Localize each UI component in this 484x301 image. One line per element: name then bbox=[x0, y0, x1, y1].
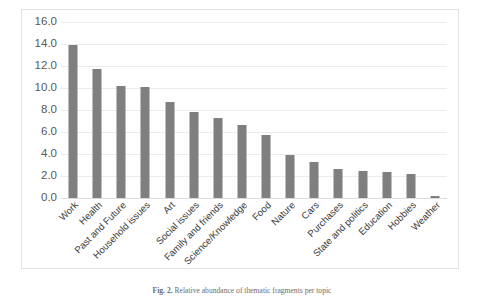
bar-slot bbox=[230, 22, 254, 198]
figure-caption: Fig. 2. Relative abundance of thematic f… bbox=[0, 286, 484, 301]
bar-slot bbox=[278, 22, 302, 198]
bar[interactable] bbox=[69, 45, 78, 198]
y-axis-tick-label: 4.0 bbox=[23, 148, 57, 160]
caption-label: Fig. 2. bbox=[153, 286, 173, 295]
bar[interactable] bbox=[430, 196, 439, 198]
bar[interactable] bbox=[262, 135, 271, 198]
y-axis-tick-label: 16.0 bbox=[23, 16, 57, 28]
bar-slot bbox=[85, 22, 109, 198]
bar-slot bbox=[61, 22, 85, 198]
bar-slot bbox=[254, 22, 278, 198]
y-axis-tick-label: 2.0 bbox=[23, 170, 57, 182]
bar[interactable] bbox=[406, 174, 415, 198]
bar-slot bbox=[375, 22, 399, 198]
y-axis-tick-label: 10.0 bbox=[23, 82, 57, 94]
bar[interactable] bbox=[358, 171, 367, 199]
plot-area bbox=[61, 22, 447, 198]
bar[interactable] bbox=[286, 155, 295, 198]
bar[interactable] bbox=[310, 162, 319, 198]
bar[interactable] bbox=[334, 169, 343, 198]
bar[interactable] bbox=[189, 112, 198, 198]
bar-slot bbox=[182, 22, 206, 198]
bar[interactable] bbox=[117, 86, 126, 198]
y-axis-tick-label: 14.0 bbox=[23, 38, 57, 50]
bar-slot bbox=[133, 22, 157, 198]
bar[interactable] bbox=[165, 102, 174, 198]
bar[interactable] bbox=[237, 125, 246, 198]
bar-slot bbox=[399, 22, 423, 198]
bar[interactable] bbox=[213, 118, 222, 198]
bar[interactable] bbox=[382, 172, 391, 198]
y-axis-tick-label: 8.0 bbox=[23, 104, 57, 116]
y-axis-tick-label: 12.0 bbox=[23, 60, 57, 72]
bar-slot bbox=[302, 22, 326, 198]
bar-slot bbox=[326, 22, 350, 198]
y-axis-tick-label: 0.0 bbox=[23, 192, 57, 204]
bar[interactable] bbox=[141, 87, 150, 198]
bar-slot bbox=[351, 22, 375, 198]
y-axis-tick-label: 6.0 bbox=[23, 126, 57, 138]
bar-slot bbox=[206, 22, 230, 198]
x-axis: WorkHealthPast and FutureHousehold issue… bbox=[61, 200, 447, 268]
caption-text: Relative abundance of thematic fragments… bbox=[175, 286, 332, 295]
bar-slot bbox=[158, 22, 182, 198]
chart-frame: 16.014.012.010.08.06.04.02.00.0 WorkHeal… bbox=[21, 9, 459, 269]
y-axis: 16.014.012.010.08.06.04.02.00.0 bbox=[22, 22, 57, 198]
figure-container: 16.014.012.010.08.06.04.02.00.0 WorkHeal… bbox=[0, 0, 484, 301]
bar[interactable] bbox=[93, 69, 102, 198]
bar-slot bbox=[423, 22, 447, 198]
bar-slot bbox=[109, 22, 133, 198]
